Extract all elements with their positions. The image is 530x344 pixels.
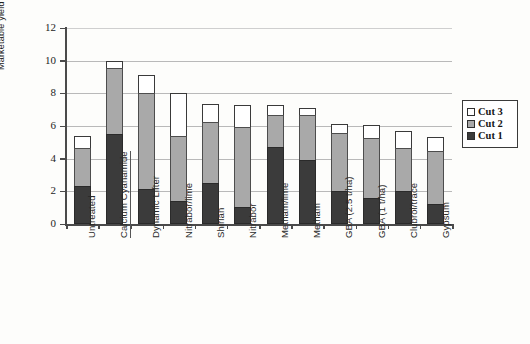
x-axis-label-7: Metham/lime (279, 183, 290, 238)
bar-segment-cut-2 (267, 115, 284, 148)
y-tick-mark-12 (60, 28, 66, 30)
bar-segment-cut-2 (74, 148, 91, 186)
x-axis-label-3: Dynamic Lifter (150, 176, 161, 238)
legend-item-cut-3: Cut 3 (467, 107, 514, 118)
legend-swatch-cut1 (467, 132, 475, 140)
x-axis-label-11: Clubrol/trace (408, 183, 419, 238)
bar-segment-cut-2 (234, 127, 251, 207)
legend-label: Cut 1 (478, 131, 503, 142)
x-tick-mark-7 (259, 224, 261, 229)
x-axis-label-9: GBA (2.5 t/ha) (343, 176, 354, 238)
bar-segment-cut-3 (138, 75, 155, 93)
x-tick-mark-10 (356, 224, 358, 229)
legend-swatch-cut2 (467, 120, 475, 128)
x-tick-mark-5 (195, 224, 197, 229)
gridline-12 (66, 28, 452, 29)
y-tick-mark-8 (60, 93, 66, 95)
x-axis-label-8: Metham (311, 203, 322, 238)
y-tick-label-10: 10 (30, 54, 56, 66)
x-axis-label-6: Nitrabor (247, 203, 258, 238)
bar-segment-cut-3 (74, 136, 91, 148)
x-axis-label-5: Shirlan (215, 208, 226, 238)
bar-segment-cut-2 (299, 115, 316, 160)
legend-label: Cut 2 (478, 119, 503, 130)
x-tick-mark-1 (66, 224, 68, 229)
legend-swatch-cut3 (467, 108, 475, 116)
y-tick-mark-4 (60, 158, 66, 160)
x-tick-mark-11 (388, 224, 390, 229)
bar-segment-cut-2 (427, 151, 444, 205)
x-tick-mark-2 (98, 224, 100, 229)
x-tick-mark-4 (163, 224, 165, 229)
bar-segment-cut-3 (299, 108, 316, 115)
bar-segment-cut-3 (331, 124, 348, 134)
y-tick-mark-6 (60, 126, 66, 128)
x-tick-mark-12 (420, 224, 422, 229)
x-axis-label-10: GBA (1 t/ha) (376, 185, 387, 238)
legend-box: Cut 3Cut 2Cut 1 (462, 100, 518, 148)
bar-segment-cut-2 (106, 68, 123, 134)
y-tick-label-6: 6 (30, 119, 56, 131)
x-axis-label-4: Nitrabor/lime (183, 183, 194, 238)
gridline-10 (66, 61, 452, 62)
x-tick-mark-8 (291, 224, 293, 229)
y-tick-mark-2 (60, 191, 66, 193)
bar-segment-cut-3 (170, 93, 187, 135)
x-tick-mark-6 (227, 224, 229, 229)
y-tick-mark-10 (60, 60, 66, 62)
bar-segment-cut-3 (427, 137, 444, 151)
chart-figure: 024681012 Marketable yield t/ha Untreate… (0, 0, 530, 344)
x-axis-label-2: Calcium Cyanamide (118, 151, 131, 238)
y-axis-title: Marketable yield t/ha (0, 0, 6, 70)
bar-segment-cut-3 (234, 105, 251, 127)
x-tick-mark-end (452, 224, 454, 229)
bar-segment-cut-3 (202, 104, 219, 122)
x-tick-mark-9 (323, 224, 325, 229)
y-tick-label-4: 4 (30, 152, 56, 164)
bar-segment-cut-3 (106, 61, 123, 68)
legend-item-cut-2: Cut 2 (467, 119, 514, 130)
bar-5 (202, 104, 219, 224)
y-tick-label-2: 2 (30, 184, 56, 196)
gridline-8 (66, 93, 452, 94)
bar-segment-cut-2 (138, 93, 155, 189)
y-tick-label-8: 8 (30, 86, 56, 98)
x-axis-label-12: Gypsum (440, 202, 451, 238)
x-axis-label-1: Untreated (86, 195, 97, 238)
bar-segment-cut-3 (267, 105, 284, 115)
bar-segment-cut-3 (363, 125, 380, 138)
gridline-6 (66, 126, 452, 127)
bar-segment-cut-2 (202, 122, 219, 183)
y-tick-label-0: 0 (30, 217, 56, 229)
legend-label: Cut 3 (478, 107, 503, 118)
bar-segment-cut-3 (395, 131, 412, 148)
y-tick-label-12: 12 (30, 21, 56, 33)
legend-item-cut-1: Cut 1 (467, 131, 514, 142)
